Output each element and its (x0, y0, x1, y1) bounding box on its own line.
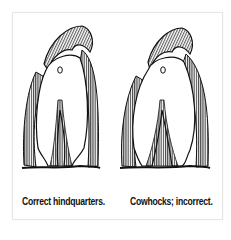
caption-incorrect: Cowhocks; incorrect. (130, 195, 213, 207)
caption-correct: Correct hindquarters. (22, 195, 105, 207)
cowhocks-drawing (120, 28, 210, 168)
correct-hindquarters-drawing (22, 26, 100, 168)
